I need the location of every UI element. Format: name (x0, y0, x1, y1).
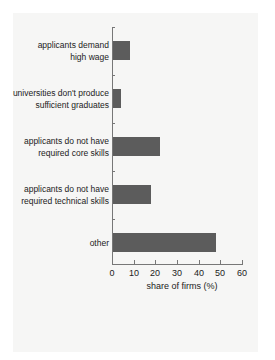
x-tick (112, 260, 113, 264)
category-label-line: applicants do not have (0, 183, 109, 195)
category-label: applicants do not have required core ski… (0, 135, 109, 159)
x-tick (242, 260, 243, 264)
x-tick-label: 60 (232, 268, 252, 278)
x-tick (134, 260, 135, 264)
x-tick-label: 40 (189, 268, 209, 278)
x-axis-title: share of firms (%) (132, 281, 232, 291)
category-label-line: other (0, 237, 109, 249)
bar-other (113, 233, 216, 252)
category-label-line: required core skills (0, 147, 109, 159)
category-label-line: high wage (0, 51, 109, 63)
x-tick (220, 260, 221, 264)
x-tick-label: 50 (210, 268, 230, 278)
y-tick (112, 171, 115, 172)
bar-insufficient-graduates (113, 89, 121, 108)
category-label-line: universities don't produce (0, 87, 109, 99)
x-tick (177, 260, 178, 264)
category-label-line: applicants do not have (0, 135, 109, 147)
x-tick-label: 10 (124, 268, 144, 278)
x-tick (155, 260, 156, 264)
y-tick (112, 123, 115, 124)
category-label: applicants demand high wage (0, 39, 109, 63)
x-tick (199, 260, 200, 264)
bar-technical-skills (113, 185, 151, 204)
y-tick (112, 75, 115, 76)
category-label: other (0, 237, 109, 249)
bar-high-wage (113, 41, 130, 60)
category-label-line: required technical skills (0, 195, 109, 207)
y-tick (112, 219, 115, 220)
x-tick-label: 0 (102, 268, 122, 278)
category-label: applicants do not have required technica… (0, 183, 109, 207)
bar-core-skills (113, 137, 160, 156)
x-axis (112, 264, 243, 265)
y-tick (112, 27, 115, 28)
x-tick-label: 30 (167, 268, 187, 278)
x-tick-label: 20 (145, 268, 165, 278)
category-label: universities don't produce sufficient gr… (0, 87, 109, 111)
category-label-line: sufficient graduates (0, 99, 109, 111)
category-label-line: applicants demand (0, 39, 109, 51)
